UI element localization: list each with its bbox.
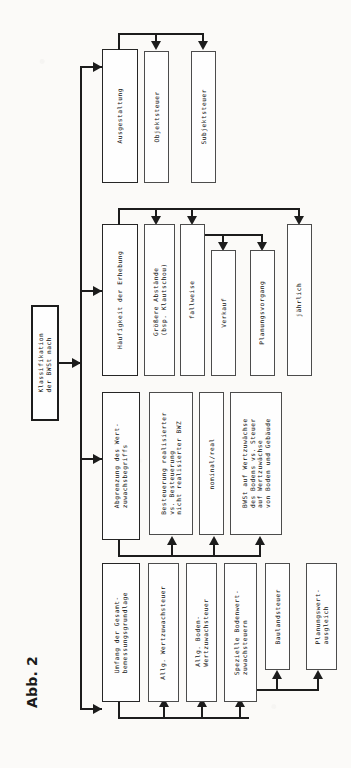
root-node-klassifikation: Klassifikation der BWSt nach: [31, 305, 59, 421]
spezielle-drop-2: [317, 678, 319, 690]
leaf-node-besteuerung-realisierter: Besteuerung realisierter vs. Besteuerung…: [149, 392, 193, 535]
leaf-node-groessere-abstaende: Größere Abstände (bsp. Klautschou): [144, 224, 175, 376]
leaf-node-jaehrlich: jährlich: [287, 224, 312, 376]
branch2-riser-line: [118, 208, 120, 225]
leaf-node-baulandsteuer-label: Baulandsteuer: [274, 589, 282, 645]
branch3-arrow-icon: [93, 454, 102, 464]
branch3-drop-2: [213, 544, 215, 556]
leaf-node-besteuerung-realisierter-label: Besteuerung realisierter vs. Besteuerung…: [160, 412, 183, 515]
root-node-label: Klassifikation der BWSt nach: [37, 333, 52, 393]
leaf-node-bwst-boden-gebaeude-label: BWSt auf Wertzuwächse des Bodens vs. Ste…: [241, 419, 271, 509]
branch-node-haeufigkeit-label: Häufigkeit der Erhebung: [116, 251, 124, 349]
trunk-line: [80, 66, 82, 710]
leaf-node-planungsvorgang: Planungsvorgang: [250, 250, 275, 376]
branch-node-abgrenzung: Abgrenzung des Wert- zuwachsbegriffs: [102, 392, 140, 540]
branch1-child2-arrow-icon: [198, 41, 208, 50]
branch-node-haeufigkeit: Häufigkeit der Erhebung: [102, 224, 138, 376]
branch3-child2-arrow-icon: [209, 536, 219, 545]
branch4-arrow-icon: [93, 704, 102, 714]
branch2-bus-line: [118, 208, 300, 210]
leaf-node-planungswertausgleich: Planungswert- ausgleich: [306, 563, 337, 670]
fallweise-subbus-line: [205, 234, 263, 236]
leaf-node-verkauf: Verkauf: [211, 250, 236, 376]
leaf-node-planungswertausgleich-label: Planungswert- ausgleich: [314, 589, 329, 645]
branch1-riser-line: [118, 33, 120, 50]
root-to-trunk-arrow-icon: [72, 358, 81, 368]
branch-node-ausgestaltung: Ausgestaltung: [102, 49, 138, 183]
leaf-node-subjektsteuer: Subjektsteuer: [191, 51, 216, 183]
branch-node-ausgestaltung-label: Ausgestaltung: [116, 88, 124, 144]
branch3-drop-3: [259, 544, 261, 556]
leaf-node-baulandsteuer: Baulandsteuer: [265, 563, 290, 670]
branch1-arrow-icon: [93, 62, 102, 72]
leaf-node-objektsteuer-label: Objektsteuer: [153, 91, 161, 142]
leaf-node-planungsvorgang-label: Planungsvorgang: [259, 281, 267, 345]
leaf-node-groessere-abstaende-label: Größere Abstände (bsp. Klautschou): [152, 264, 167, 337]
leaf-node-objektsteuer: Objektsteuer: [144, 51, 169, 183]
leaf-node-verkauf-label: Verkauf: [220, 298, 228, 328]
spezielle-drop-1: [276, 678, 278, 690]
leaf-node-bwst-boden-gebaeude: BWSt auf Wertzuwächse des Bodens vs. Ste…: [230, 392, 282, 535]
leaf-node-fallweise: fallweise: [180, 224, 205, 376]
spezielle-subbus-line: [257, 689, 319, 691]
leaf-node-allg-boden-wertzuwachsteuer-label: Allg. Boden- Wertzuwachsteuer: [194, 598, 209, 666]
leaf-node-nominal-real-label: nominal/real: [208, 438, 216, 489]
leaf-node-spezielle-bodenwertzuwachsteuern: Spezielle Bodenwert- zuwachsteuern: [224, 563, 257, 702]
leaf-node-allg-wertzuwachsteuer: Allg. Wertzuwachsteuer: [148, 563, 179, 702]
branch1-bus-line: [118, 33, 204, 35]
branch-node-umfang-label: Umfang der Gesamt- bemessungsgrundlage: [113, 592, 128, 673]
branch3-drop-1: [171, 544, 173, 556]
branch4-drop-1: [163, 706, 165, 718]
leaf-node-spezielle-bodenwertzuwachsteuern-label: Spezielle Bodenwert- zuwachsteuern: [233, 590, 248, 676]
leaf-node-jaehrlich-label: jährlich: [296, 283, 304, 317]
planungswertausgleich-arrow-icon: [313, 670, 323, 679]
leaf-node-nominal-real: nominal/real: [199, 392, 224, 535]
branch-node-umfang: Umfang der Gesamt- bemessungsgrundlage: [102, 563, 140, 702]
baulandsteuer-arrow-icon: [272, 670, 282, 679]
branch3-child3-arrow-icon: [255, 536, 265, 545]
branch4-drop-2: [201, 706, 203, 718]
branch4-bus-line: [118, 717, 249, 719]
leaf-node-allg-wertzuwachsteuer-label: Allg. Wertzuwachsteuer: [160, 585, 168, 679]
branch-node-abgrenzung-label: Abgrenzung des Wert- zuwachsbegriffs: [113, 423, 128, 509]
branch3-bus-line: [118, 555, 261, 557]
leaf-node-allg-boden-wertzuwachsteuer: Allg. Boden- Wertzuwachsteuer: [186, 563, 217, 702]
leaf-node-fallweise-label: fallweise: [189, 281, 197, 319]
leaf-node-subjektsteuer-label: Subjektsteuer: [200, 89, 208, 145]
branch2-arrow-icon: [93, 286, 102, 296]
branch4-drop-3: [239, 706, 241, 718]
branch3-child1-arrow-icon: [167, 536, 177, 545]
branch1-child1-arrow-icon: [151, 41, 161, 50]
figure-caption: Abb. 2: [22, 652, 42, 712]
